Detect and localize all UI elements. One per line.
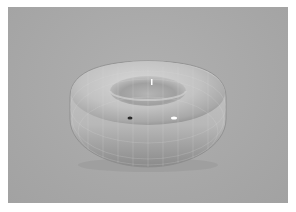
dark-spot — [128, 117, 133, 120]
specular-highlight — [171, 117, 177, 120]
render-viewport — [8, 7, 288, 203]
torus-body — [70, 61, 226, 167]
specular-highlight — [151, 79, 153, 85]
torus-render — [8, 7, 288, 203]
